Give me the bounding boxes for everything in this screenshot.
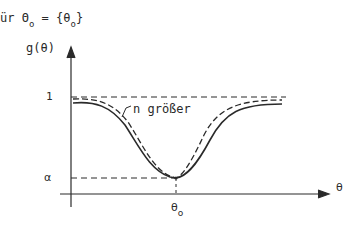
annotation-leader (122, 106, 131, 117)
diagram-canvas (0, 0, 353, 227)
curve-solid (73, 103, 282, 178)
x-axis (60, 190, 329, 198)
y-axis (67, 47, 75, 207)
curve-dashed (73, 99, 282, 178)
x-axis-arrow-icon (318, 190, 329, 198)
min-point (174, 176, 177, 179)
y-axis-arrow-icon (67, 47, 75, 58)
